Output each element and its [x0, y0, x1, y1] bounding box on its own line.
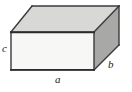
box-figure: c a b: [0, 0, 132, 92]
rectangular-box-graphic: [0, 0, 132, 92]
dimension-label-a: a: [55, 74, 61, 85]
dimension-label-c: c: [2, 43, 7, 54]
box-front-face: [11, 32, 94, 70]
dimension-label-b: b: [108, 59, 114, 70]
